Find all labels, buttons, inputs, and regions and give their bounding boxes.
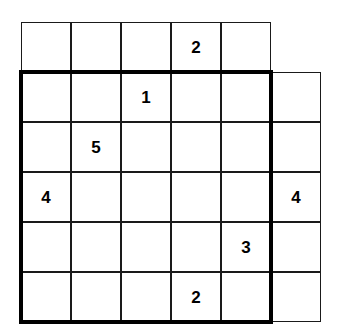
grid-cell-r2c2[interactable] bbox=[71, 72, 121, 122]
grid-cell-r4c1[interactable]: 4 bbox=[21, 172, 71, 222]
grid-cell-r2c3[interactable]: 1 bbox=[121, 72, 171, 122]
cell-value-r4c1: 4 bbox=[41, 189, 50, 206]
cell-value-r4c6: 4 bbox=[291, 189, 300, 206]
cell-value-r6c4: 2 bbox=[191, 289, 200, 306]
grid-cell-r6c2[interactable] bbox=[71, 272, 121, 322]
grid-cell-r3c3[interactable] bbox=[121, 122, 171, 172]
grid-cell-r4c6[interactable]: 4 bbox=[271, 172, 321, 222]
grid-cell-r6c6[interactable] bbox=[271, 272, 321, 322]
grid-cell-r1c3[interactable] bbox=[121, 22, 171, 72]
cell-value-r5c5: 3 bbox=[241, 239, 250, 256]
grid-cell-r5c6[interactable] bbox=[271, 222, 321, 272]
grid-cell-r3c4[interactable] bbox=[171, 122, 221, 172]
grid-cell-r1c5[interactable] bbox=[221, 22, 271, 72]
grid-cell-r3c5[interactable] bbox=[221, 122, 271, 172]
grid-cell-r2c4[interactable] bbox=[171, 72, 221, 122]
grid-cell-r6c1[interactable] bbox=[21, 272, 71, 322]
grid-cell-r6c3[interactable] bbox=[121, 272, 171, 322]
cell-value-r1c4: 2 bbox=[191, 39, 200, 56]
cell-value-r3c2: 5 bbox=[91, 139, 100, 156]
grid-cell-r4c2[interactable] bbox=[71, 172, 121, 222]
grid-cell-r2c6[interactable] bbox=[271, 72, 321, 122]
grid-cell-r4c4[interactable] bbox=[171, 172, 221, 222]
grid-cell-r3c6[interactable] bbox=[271, 122, 321, 172]
grid-cell-r6c4[interactable]: 2 bbox=[171, 272, 221, 322]
grid-cell-r4c3[interactable] bbox=[121, 172, 171, 222]
grid-cell-r5c2[interactable] bbox=[71, 222, 121, 272]
grid-cell-r1c2[interactable] bbox=[71, 22, 121, 72]
grid-cell-r1c4[interactable]: 2 bbox=[171, 22, 221, 72]
grid-cell-r1c1[interactable] bbox=[21, 22, 71, 72]
grid-cell-r5c1[interactable] bbox=[21, 222, 71, 272]
cell-value-r2c3: 1 bbox=[141, 89, 150, 106]
grid-cell-r2c1[interactable] bbox=[21, 72, 71, 122]
grid-cell-r4c5[interactable] bbox=[221, 172, 271, 222]
grid-cell-r5c4[interactable] bbox=[171, 222, 221, 272]
grid-cell-r5c3[interactable] bbox=[121, 222, 171, 272]
grid-cell-r3c1[interactable] bbox=[21, 122, 71, 172]
grid-cell-r5c5[interactable]: 3 bbox=[221, 222, 271, 272]
grid-cell-r2c5[interactable] bbox=[221, 72, 271, 122]
puzzle-grid-container: 2154432 bbox=[0, 0, 345, 335]
grid-cell-r6c5[interactable] bbox=[221, 272, 271, 322]
grid-cell-r3c2[interactable]: 5 bbox=[71, 122, 121, 172]
